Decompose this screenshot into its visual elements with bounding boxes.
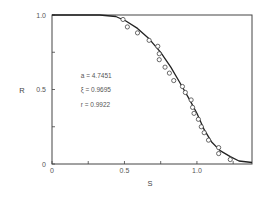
- annotation-text: r = 0.9922: [81, 101, 111, 108]
- data-point-marker: [167, 71, 171, 75]
- data-point-marker: [135, 31, 139, 35]
- data-points: [121, 17, 232, 161]
- data-point-marker: [217, 151, 221, 155]
- data-point-marker: [217, 146, 221, 150]
- x-axis-ticks: 00.51.0: [50, 161, 233, 174]
- data-point-marker: [189, 98, 193, 102]
- data-point-marker: [157, 52, 161, 56]
- data-point-marker: [206, 138, 210, 142]
- data-point-marker: [157, 58, 161, 62]
- y-tick-label: 0.5: [36, 86, 46, 93]
- data-point-marker: [183, 90, 187, 94]
- reliability-chart: 00.51.0 00.51.0 S R a = 4.7451ξ = 0.9695…: [0, 0, 265, 197]
- data-point-marker: [121, 17, 125, 21]
- data-point-marker: [156, 44, 160, 48]
- data-point-marker: [190, 105, 194, 109]
- data-point-marker: [196, 117, 200, 121]
- data-point-marker: [192, 111, 196, 115]
- data-point-marker: [125, 25, 129, 29]
- data-point-marker: [202, 131, 206, 135]
- y-tick-label: 1.0: [36, 12, 46, 19]
- x-tick-label: 0.5: [120, 167, 130, 174]
- data-point-marker: [199, 125, 203, 129]
- fit-parameters: a = 4.7451ξ = 0.9695r = 0.9922: [81, 72, 112, 109]
- data-point-marker: [147, 38, 151, 42]
- annotation-text: a = 4.7451: [81, 72, 112, 79]
- x-axis-label: S: [147, 179, 152, 188]
- x-tick-label: 0: [50, 167, 54, 174]
- y-axis-label: R: [19, 86, 25, 95]
- data-point-marker: [163, 65, 167, 69]
- annotation-text: ξ = 0.9695: [81, 86, 112, 94]
- data-point-marker: [172, 78, 176, 82]
- data-point-marker: [228, 157, 232, 161]
- x-tick-label: 1.0: [192, 167, 202, 174]
- y-tick-label: 0: [42, 161, 46, 168]
- data-point-marker: [180, 84, 184, 88]
